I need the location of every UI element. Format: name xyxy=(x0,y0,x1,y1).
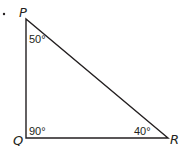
angle-label-q: 90° xyxy=(29,125,46,137)
vertex-label-r: R xyxy=(170,132,179,146)
bullet-dot xyxy=(3,13,5,15)
triangle-diagram: P Q R 50° 90° 40° xyxy=(0,0,179,146)
angle-label-r: 40° xyxy=(134,125,151,137)
triangle-pqr xyxy=(26,19,168,138)
vertex-label-q: Q xyxy=(13,133,23,146)
angle-label-p: 50° xyxy=(29,33,46,45)
vertex-label-p: P xyxy=(19,5,27,20)
